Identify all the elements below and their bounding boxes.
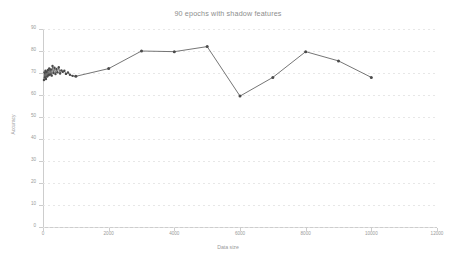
data-point: [69, 74, 71, 76]
data-point: [140, 50, 143, 53]
x-tick-label: 8000: [286, 232, 326, 240]
data-point: [271, 76, 274, 79]
data-point: [45, 78, 47, 80]
y-tick-label-text: 40: [14, 136, 36, 141]
y-tick-label-text: 60: [14, 92, 36, 97]
y-tick-label: 40: [14, 136, 36, 142]
data-point: [50, 68, 52, 70]
x-tick-label-text: 10000: [351, 232, 391, 237]
data-point: [55, 68, 57, 70]
data-point: [59, 72, 61, 74]
x-tick-label: 6000: [220, 232, 260, 240]
y-tick-label-text: 90: [14, 26, 36, 31]
data-point: [239, 95, 242, 98]
data-point: [53, 67, 55, 69]
y-tick-label: 10: [14, 202, 36, 208]
x-tick-label: 4000: [154, 232, 194, 240]
series-accuracy: [43, 29, 437, 227]
y-tick-label-text: 50: [14, 114, 36, 119]
x-tick-label: 0: [23, 232, 63, 240]
x-tick-label-text: 2000: [89, 232, 129, 237]
y-tick-label-text: 10: [14, 202, 36, 207]
y-tick-label: 0: [14, 224, 36, 230]
data-point: [54, 73, 56, 75]
y-axis-title: Accuracy: [8, 96, 18, 156]
gridline: [43, 227, 437, 228]
data-point: [67, 71, 69, 73]
x-tick-label-text: 8000: [286, 232, 326, 237]
y-axis-title-text: Accuracy: [11, 98, 16, 152]
y-tick-label: 80: [14, 48, 36, 54]
x-tick-label: 12000: [417, 232, 456, 240]
y-tick-label-text: 70: [14, 70, 36, 75]
data-point: [206, 45, 209, 48]
y-tick-label-text: 80: [14, 48, 36, 53]
x-tick-label: 10000: [351, 232, 391, 240]
line-chart: 90 epochs with shadow features Accuracy …: [0, 0, 456, 262]
y-tick-label-text: 0: [14, 224, 36, 229]
data-point: [51, 74, 53, 76]
data-point: [63, 70, 65, 72]
series-markers: [43, 45, 373, 98]
series-line-path: [44, 47, 371, 97]
data-point: [370, 76, 373, 79]
y-tick-label: 20: [14, 180, 36, 186]
x-tick-label-text: 12000: [417, 232, 456, 237]
x-tick-label: 2000: [89, 232, 129, 240]
x-tick-label-text: 6000: [220, 232, 260, 237]
data-point: [173, 50, 176, 53]
data-point: [56, 71, 58, 73]
x-tick-label-text: 0: [23, 232, 63, 237]
data-point: [304, 50, 307, 53]
y-tick-label: 50: [14, 114, 36, 120]
data-point: [58, 66, 60, 68]
x-axis-title: Data size: [0, 244, 456, 250]
y-tick-label: 70: [14, 70, 36, 76]
y-tick-label-text: 20: [14, 180, 36, 185]
data-point: [51, 65, 53, 67]
y-tick-label-text: 30: [14, 158, 36, 163]
y-tick-label: 90: [14, 26, 36, 32]
y-tick-label: 30: [14, 158, 36, 164]
plot-area: [43, 29, 437, 227]
data-point: [71, 75, 73, 77]
chart-title: 90 epochs with shadow features: [0, 9, 456, 18]
data-point: [337, 59, 340, 62]
y-tick-label: 60: [14, 92, 36, 98]
x-tick-label-text: 4000: [154, 232, 194, 237]
data-point: [65, 73, 67, 75]
data-point: [74, 75, 77, 78]
data-point: [107, 67, 110, 70]
